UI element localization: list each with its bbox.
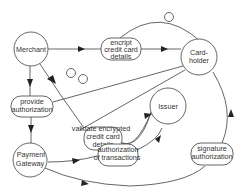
provide-auth-label-line2: authorization (11, 105, 52, 114)
node-merchant[interactable]: Merchant (14, 32, 48, 66)
edge-signature-cardholder (213, 72, 227, 143)
merchant-label: Merchant (16, 45, 46, 54)
arrow-head (27, 79, 33, 87)
node-authorization-transactions[interactable]: authorization of transactions (94, 144, 141, 166)
line-marker-circle (67, 69, 76, 78)
node-payment-gateway[interactable]: Payment Gateway (13, 143, 47, 177)
edge-gateway-signature (45, 166, 205, 186)
cardholder-label-line2: holder (189, 56, 210, 65)
encrypt-label-line3: details (111, 52, 132, 61)
arrow-head (228, 109, 234, 117)
diagram-canvas: Merchant encript credit card details Car… (0, 0, 242, 196)
arrow-head (72, 158, 80, 164)
signature-label-line2: authorization (191, 152, 232, 161)
auth-trans-label-line2: of transactions (94, 153, 141, 162)
issuer-label: Issuer (158, 102, 178, 111)
edge-merchant-validate (40, 64, 84, 128)
node-signature-authorization[interactable]: signature authorization (191, 143, 233, 165)
arrow-head (28, 125, 34, 133)
node-cardholder[interactable]: Card- holder (181, 39, 217, 75)
node-encrypt-credit-card[interactable]: encript credit card details (101, 38, 141, 61)
arrow-head (78, 46, 85, 52)
arrow-head (161, 46, 168, 52)
node-issuer[interactable]: Issuer (150, 88, 186, 124)
arrow-head (144, 113, 152, 119)
arrow-head (155, 135, 161, 143)
line-marker-circle (79, 75, 88, 84)
gateway-label-line1: Payment (17, 150, 45, 159)
node-provide-authorization[interactable]: provide authorization (11, 96, 53, 117)
gateway-label-line2: Gateway (16, 159, 45, 168)
arc-marker-circle (165, 13, 174, 22)
